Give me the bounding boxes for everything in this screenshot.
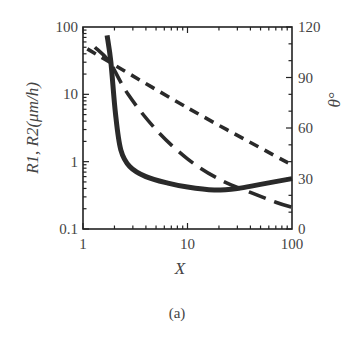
y-right-tick-label: 90 <box>298 70 313 86</box>
x-axis-title: X <box>174 259 186 278</box>
y-right-tick-label: 30 <box>298 171 313 187</box>
y-axis-left-title: R1, R2(μm/h) <box>23 82 42 175</box>
y-right-tick-label: 60 <box>298 120 313 136</box>
y-left-tick-label: 100 <box>56 19 79 35</box>
y-axis-right-title: θ° <box>325 92 344 107</box>
figure-caption: (a) <box>169 305 186 322</box>
x-tick-label: 10 <box>180 236 195 252</box>
plot-lines <box>87 35 292 207</box>
y-right-tick-label: 120 <box>298 19 321 35</box>
y-right-tick-label: 0 <box>298 221 306 237</box>
y-left-tick-label: 1 <box>71 154 79 170</box>
series-line-1 <box>107 35 292 190</box>
chart: 1101000.11101000306090120 X R1, R2(μm/h)… <box>0 0 351 341</box>
plot-frame <box>83 27 292 229</box>
y-left-tick-label: 10 <box>63 86 78 102</box>
axis-ticks <box>83 27 292 229</box>
x-tick-label: 100 <box>281 236 304 252</box>
y-left-tick-label: 0.1 <box>59 221 78 237</box>
x-tick-label: 1 <box>79 236 87 252</box>
